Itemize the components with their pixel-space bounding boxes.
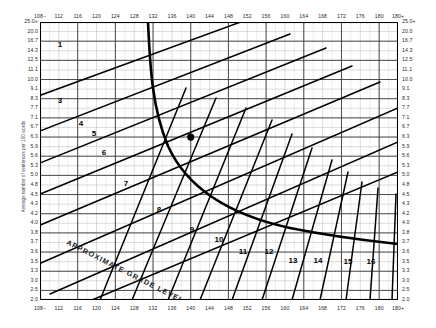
x-axis-tick-label: 160 xyxy=(280,14,289,19)
grade-band-label: 13 xyxy=(289,256,298,265)
x-axis-tick-label: 156 xyxy=(262,14,271,19)
y-axis-tick-label: 3.6 xyxy=(10,249,38,254)
x-axis-tick-label: 160 xyxy=(280,306,289,311)
y-axis-tick-label: 5.9 xyxy=(10,144,38,149)
y-axis-tick-label: 10.0 xyxy=(10,77,38,82)
grade-band-label: 7 xyxy=(124,179,129,188)
x-axis-tick-label: 140 xyxy=(186,306,195,311)
y-axis-tick-label: 10.0 xyxy=(402,77,413,82)
y-axis-tick-label: 2.5 xyxy=(10,288,38,293)
grade-band-label: 1 xyxy=(58,40,63,49)
x-axis-tick-label: 120 xyxy=(92,14,101,19)
y-axis-tick-label: 3.3 xyxy=(10,269,38,274)
y-axis-tick-label: 3.5 xyxy=(10,259,38,264)
x-axis-tick-label: 148 xyxy=(224,14,233,19)
x-axis-tick-label: 132 xyxy=(149,14,158,19)
x-axis-tick-label: 168 xyxy=(318,306,327,311)
x-axis-tick-label: 144 xyxy=(205,14,214,19)
x-axis-tick-label: 152 xyxy=(243,14,252,19)
y-axis-tick-label: 8.3 xyxy=(10,96,38,101)
y-axis-tick-label: 3.7 xyxy=(402,240,410,245)
y-axis-tick-label: 4.8 xyxy=(10,182,38,187)
x-axis-tick-label: 116 xyxy=(73,306,82,311)
y-axis-tick-label: 25.0+ xyxy=(402,19,416,24)
y-axis-tick-label: 5.9 xyxy=(402,144,410,149)
fry-readability-graph: Average number of sentences per 100 word… xyxy=(0,0,436,328)
y-axis-tick-label: 7.1 xyxy=(10,115,38,120)
y-axis-tick-label: 16.7 xyxy=(402,39,413,44)
y-axis-tick-label: 3.0 xyxy=(402,278,410,283)
y-axis-tick-label: 11.1 xyxy=(402,67,412,72)
y-axis-tick-label: 3.0 xyxy=(10,278,38,283)
y-axis-tick-label: 20.0 xyxy=(402,29,413,34)
y-axis-tick-label: 4.2 xyxy=(402,211,410,216)
y-axis-tick-label: 3.8 xyxy=(10,230,38,235)
x-axis-tick-label: 152 xyxy=(243,306,252,311)
y-axis-tick-label: 14.3 xyxy=(402,48,413,53)
x-axis-tick-label: 176 xyxy=(356,14,365,19)
grade-band-label: 6 xyxy=(102,148,107,157)
x-axis-tick-label: 168 xyxy=(318,14,327,19)
y-axis-tick-label: 5.6 xyxy=(402,154,410,159)
y-axis-tick-label: 5.3 xyxy=(402,163,410,168)
y-axis-tick-label: 12.5 xyxy=(402,58,413,63)
x-axis-tick-label: 128 xyxy=(130,14,139,19)
y-axis-tick-label: 9.1 xyxy=(402,86,410,91)
y-axis-tick-label: 2.0 xyxy=(10,297,38,302)
grade-band-label: 11 xyxy=(239,247,248,256)
y-axis-tick-label: 6.7 xyxy=(10,125,38,130)
plotted-data-point xyxy=(187,133,194,140)
x-axis-tick-label: 124 xyxy=(111,14,120,19)
x-axis-tick-label: 144 xyxy=(205,306,214,311)
y-axis-tick-label: 3.7 xyxy=(10,240,38,245)
y-axis-tick-label: 20.0 xyxy=(10,29,38,34)
x-axis-tick-label: 172 xyxy=(337,14,346,19)
plot-area: 1234567891011121314151617+ APPROXIMATE G… xyxy=(40,22,398,300)
data-points xyxy=(187,133,194,140)
y-axis-tick-label: 11.1 xyxy=(10,67,38,72)
y-axis-tick-label: 3.3 xyxy=(402,269,410,274)
grade-band-label: 12 xyxy=(265,247,274,256)
x-axis-tick-label: 136 xyxy=(167,306,176,311)
y-axis-tick-label: 6.7 xyxy=(402,125,410,130)
y-axis-tick-label: 2.5 xyxy=(402,288,410,293)
x-axis-tick-label: 180 xyxy=(375,14,384,19)
y-axis-tick-label: 25.0+ xyxy=(10,19,38,24)
y-axis-tick-label: 4.5 xyxy=(10,192,38,197)
grade-band-label: 5 xyxy=(92,129,97,138)
y-axis-tick-label: 7.7 xyxy=(402,106,410,111)
x-axis-tick-label: 148 xyxy=(224,306,233,311)
y-axis-tick-label: 2.0 xyxy=(402,297,410,302)
x-axis-tick-label: 136 xyxy=(167,14,176,19)
y-axis-tick-label: 12.5 xyxy=(10,58,38,63)
y-axis-tick-label: 4.2 xyxy=(10,211,38,216)
y-axis-tick-label: 3.6 xyxy=(402,249,410,254)
x-axis-tick-label: 124 xyxy=(111,306,120,311)
y-axis-tick-label: 4.8 xyxy=(402,182,410,187)
grade-band-label: 10 xyxy=(215,235,224,244)
x-axis-tick-label: 108− xyxy=(34,306,46,311)
y-axis-tick-label: 5.6 xyxy=(10,154,38,159)
x-axis-tick-label: 172 xyxy=(337,306,346,311)
x-axis-tick-label: 140 xyxy=(186,14,195,19)
x-axis-tick-label: 128 xyxy=(130,306,139,311)
x-axis-tick-label: 156 xyxy=(262,306,271,311)
y-axis-tick-label: 5.0 xyxy=(402,173,410,178)
x-axis-tick-label: 180 xyxy=(375,306,384,311)
y-axis-tick-label: 4.0 xyxy=(10,221,38,226)
x-axis-tick-label: 180+ xyxy=(392,306,404,311)
x-axis-tick-label: 112 xyxy=(55,306,64,311)
y-axis-tick-label: 5.0 xyxy=(10,173,38,178)
chart-canvas: 1234567891011121314151617+ APPROXIMATE G… xyxy=(40,22,398,300)
y-axis-tick-label: 7.7 xyxy=(10,106,38,111)
grade-band-label: 9 xyxy=(190,225,195,234)
y-axis-tick-label: 9.1 xyxy=(10,86,38,91)
y-axis-tick-label: 5.3 xyxy=(10,163,38,168)
y-axis-tick-label: 8.3 xyxy=(402,96,410,101)
x-axis-tick-label: 176 xyxy=(356,306,365,311)
grade-band-label: 14 xyxy=(314,256,323,265)
x-axis-tick-label: 120 xyxy=(92,306,101,311)
grade-band-label: 16 xyxy=(367,257,376,266)
y-axis-tick-label: 6.3 xyxy=(402,134,410,139)
grade-band-label: 3 xyxy=(58,96,63,105)
